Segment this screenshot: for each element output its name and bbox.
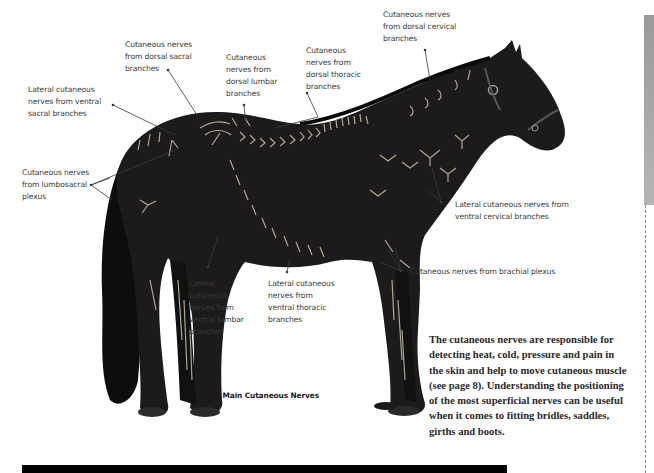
label-dorsal-cervical: Cutaneous nerves from dorsal cervical br… [383, 9, 456, 45]
label-ventral-thoracic: Lateral cutaneous nerves from ventral th… [268, 278, 335, 326]
label-lumbosacral: Cutaneous nerves from lumbosacral plexus [22, 167, 89, 203]
label-dorsal-sacral: Cutaneous nerves from dorsal sacral bran… [125, 39, 192, 75]
label-ventral-lumbar: Lateral cutaneous nerves from ventral lu… [189, 278, 244, 338]
label-brachial: Cutaneous nerves from brachial plexus [410, 266, 555, 278]
body-paragraph: The cutaneous nerves are responsible for… [429, 332, 629, 439]
label-ventral-sacral: Lateral cutaneous nerves from ventral sa… [28, 84, 101, 120]
bottom-rule [22, 465, 507, 473]
label-ventral-cervical: Lateral cutaneous nerves from ventral ce… [455, 199, 569, 223]
figure-caption: The Main Cutaneous Nerves [205, 391, 319, 400]
label-dorsal-lumbar: Cutaneous nerves from dorsal lumbar bran… [226, 52, 277, 100]
page-cut-line [645, 205, 646, 473]
book-page: Cutaneous nerves from dorsal sacral bran… [0, 0, 654, 473]
label-dorsal-thoracic: Cutaneous nerves from dorsal thoracic br… [306, 45, 361, 93]
page-side-tab [644, 15, 654, 205]
